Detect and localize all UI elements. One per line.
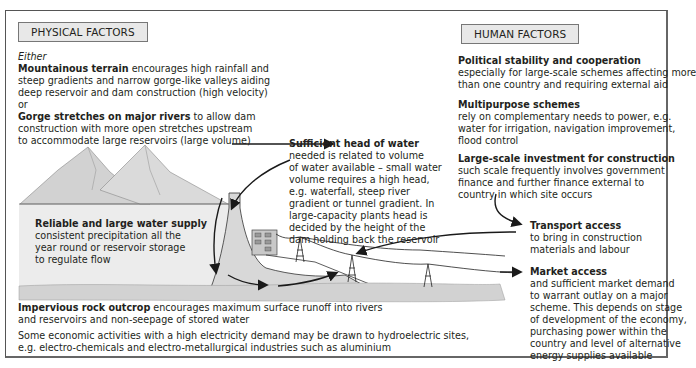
economic-note-l2: e.g. electro-chemicals and electro-metal…: [18, 342, 391, 354]
multipurpose-l2: water for irrigation, navigation improve…: [458, 123, 675, 135]
transport-l2: materials and labour: [530, 244, 630, 256]
rock-text-l1: Impervious rock outcrop encourages maxim…: [18, 302, 383, 314]
rock-text-l2: and reservoirs and non-seepage of stored…: [18, 314, 249, 326]
head-of-water-l2: of water available – small water: [289, 162, 442, 174]
multipurpose-title: Multipurpose schemes: [458, 99, 580, 111]
head-of-water-l6: large-capacity plants head is: [289, 210, 428, 222]
multipurpose-l1: rely on complementary needs to power, e.…: [458, 111, 671, 123]
market-l7: energy supplies available: [530, 350, 652, 362]
gorge-text-l1: Gorge stretches on major rivers to allow…: [18, 111, 256, 123]
power-station-icon: [252, 230, 277, 255]
human-factors-header: HUMAN FACTORS: [461, 24, 579, 44]
mountains: [19, 145, 229, 204]
water-supply-l3: to regulate flow: [35, 254, 111, 266]
rock-desc: encourages maximum surface runoff into r…: [150, 302, 382, 313]
head-of-water-l8: dam holding back the reservoir: [289, 234, 439, 246]
market-l5: purchasing power within the: [530, 326, 667, 338]
head-of-water-title: Sufficient head of water: [289, 138, 419, 150]
investment-l3: country in which site occurs: [458, 189, 592, 201]
multipurpose-l3: flood control: [458, 135, 518, 147]
water-supply-l1: consistent precipitation all the: [35, 230, 181, 242]
market-l3: scheme. This depends on stage: [530, 302, 682, 314]
investment-title: Large-scale investment for construction: [458, 153, 675, 165]
or-label: or: [18, 99, 28, 111]
market-l4: of development of the economy,: [530, 314, 687, 326]
head-of-water-l7: decided by the height of the: [289, 222, 425, 234]
water-supply-l2: year round or reservoir storage: [35, 242, 185, 254]
mountain-desc: encourages high rainfall and: [129, 63, 269, 74]
transport-l1: to bring in construction: [530, 232, 642, 244]
economic-note-l1: Some economic activities with a high ele…: [18, 330, 469, 342]
gorge-desc: to allow dam: [191, 111, 256, 122]
physical-factors-header: PHYSICAL FACTORS: [18, 22, 148, 42]
rock-title: Impervious rock outcrop: [18, 302, 150, 313]
mountain-text-l1: Mountainous terrain encourages high rain…: [18, 63, 269, 75]
gorge-text-l3: to accommodate large reservoirs (large v…: [18, 135, 251, 147]
political-title: Political stability and cooperation: [458, 55, 641, 67]
political-l1: especially for large-scale schemes affec…: [458, 67, 696, 79]
market-l1: and sufficient market demand: [530, 278, 675, 290]
head-of-water-l4: e.g. waterfall, steep river: [289, 186, 410, 198]
mountain-text-l2: steep gradients and narrow gorge-like va…: [18, 75, 270, 87]
market-l2: to warrant outlay on a major: [530, 290, 668, 302]
head-of-water-l3: volume requires a high head,: [289, 174, 430, 186]
political-l2: than one country and requiring external …: [458, 79, 668, 91]
transport-title: Transport access: [530, 220, 621, 232]
mountain-text-l3: deep reservoir and dam construction (hig…: [18, 87, 268, 99]
market-title: Market access: [530, 266, 607, 278]
gorge-text-l2: construction with more open stretches up…: [18, 123, 252, 135]
investment-l2: finance and further finance external to: [458, 177, 644, 189]
either-label: Either: [18, 51, 46, 63]
water-supply-title: Reliable and large water supply: [35, 218, 207, 230]
head-of-water-l1: needed is related to volume: [289, 150, 424, 162]
mountain-title: Mountainous terrain: [18, 63, 129, 74]
head-of-water-l5: gradient or tunnel gradient. In: [289, 198, 434, 210]
market-l6: country and level of alternative: [530, 338, 681, 350]
investment-l1: such scale frequently involves governmen…: [458, 165, 665, 177]
gorge-title: Gorge stretches on major rivers: [18, 111, 191, 122]
